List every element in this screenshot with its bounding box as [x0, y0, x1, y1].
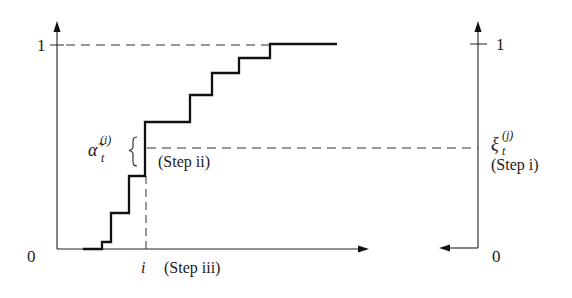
- step-iii-label: (Step iii): [164, 259, 220, 277]
- right-y-axis-arrow-icon: [475, 21, 482, 32]
- right-plot: 1 0 ξ t (j) (Step i): [439, 21, 539, 266]
- right-y-label-1: 1: [496, 35, 505, 54]
- alpha-superscript: (i): [100, 133, 111, 147]
- step-ii-label: (Step ii): [158, 153, 210, 171]
- x-marker-i-label: i: [141, 259, 145, 276]
- step-i-label: (Step i): [491, 156, 539, 174]
- xi-symbol: ξ: [491, 134, 499, 154]
- alpha-subscript: t: [101, 151, 105, 165]
- alpha-brace: [129, 137, 137, 166]
- diagram-canvas: 1 0 i (Step iii) α̃ t (i) (Step ii) 1 0 …: [0, 0, 572, 298]
- right-origin-label: 0: [492, 247, 501, 266]
- right-x-axis-arrow-icon: [439, 245, 450, 252]
- left-plot: 1 0 i (Step iii) α̃ t (i) (Step ii): [27, 21, 478, 277]
- left-y-axis-arrow-icon: [54, 21, 61, 32]
- cdf-staircase: [83, 44, 337, 249]
- left-x-axis-arrow-icon: [358, 246, 369, 253]
- left-y-label-1: 1: [37, 36, 46, 55]
- left-origin-label: 0: [27, 247, 36, 266]
- xi-superscript: (j): [502, 128, 513, 142]
